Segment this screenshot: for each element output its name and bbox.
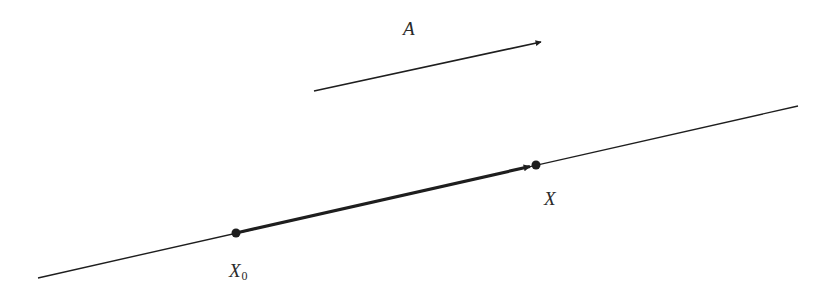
label-x0-text: X — [229, 260, 241, 281]
label-x0: X0 — [229, 261, 248, 282]
label-a: A — [403, 19, 415, 38]
label-x-text: X — [544, 188, 556, 209]
point-x — [532, 161, 541, 170]
label-x: X — [544, 189, 556, 208]
vector-a-arrow — [314, 42, 541, 91]
segment-x0-to-x-arrow — [236, 167, 530, 234]
point-x0 — [232, 229, 241, 238]
label-a-text: A — [403, 18, 415, 39]
diagram-canvas — [0, 0, 832, 292]
label-x0-subscript: 0 — [242, 269, 248, 283]
